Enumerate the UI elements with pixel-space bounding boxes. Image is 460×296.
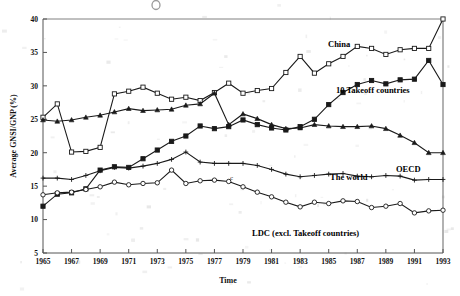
data-point xyxy=(184,134,188,138)
data-point xyxy=(98,145,102,149)
x-tick-label: 1979 xyxy=(236,257,251,266)
x-tick-label: 1967 xyxy=(64,257,79,266)
data-point xyxy=(169,139,173,143)
data-point xyxy=(427,46,431,50)
series-label-takeoff: 10 Takeoff countries xyxy=(336,85,410,95)
data-point xyxy=(398,78,402,82)
data-point xyxy=(298,205,302,209)
data-point xyxy=(255,123,259,127)
data-point xyxy=(255,88,259,92)
x-tick-label: 1973 xyxy=(150,257,165,266)
data-point xyxy=(327,62,331,66)
series-label-china: China xyxy=(328,39,351,49)
data-point xyxy=(312,71,316,75)
data-point xyxy=(398,48,402,52)
data-point xyxy=(55,102,59,106)
data-point xyxy=(441,17,445,21)
data-point xyxy=(155,148,159,152)
data-point xyxy=(227,81,231,85)
data-point xyxy=(269,195,273,199)
data-point xyxy=(341,54,345,58)
series-label-world: The world xyxy=(330,172,368,182)
data-point xyxy=(369,205,373,209)
data-point xyxy=(241,118,245,122)
x-tick-label: 1991 xyxy=(407,257,422,266)
y-tick-label: 30 xyxy=(31,82,39,91)
data-point xyxy=(355,199,359,203)
data-point xyxy=(184,181,188,185)
data-point xyxy=(269,86,273,90)
data-point xyxy=(369,46,373,50)
data-point xyxy=(141,181,145,185)
data-point xyxy=(427,209,431,213)
data-point xyxy=(298,54,302,58)
x-tick-label: 1969 xyxy=(93,257,108,266)
chart-container: 5101520253035401965196719691971197319751… xyxy=(0,0,460,296)
data-point xyxy=(327,102,331,106)
data-point xyxy=(98,185,102,189)
x-tick-label: 1993 xyxy=(436,257,451,266)
y-tick-label: 25 xyxy=(31,115,39,124)
data-point xyxy=(255,190,259,194)
data-point xyxy=(112,180,116,184)
data-point xyxy=(184,95,188,99)
series-label-ldc: LDC (excl. Takeoff countries) xyxy=(252,228,359,238)
data-point xyxy=(198,124,202,128)
data-point xyxy=(112,92,116,96)
annotation-c: c xyxy=(230,174,233,182)
series-label-oecd: OECD xyxy=(396,164,421,174)
data-point xyxy=(284,70,288,74)
data-point xyxy=(441,208,445,212)
data-point xyxy=(284,200,288,204)
x-tick-label: 1989 xyxy=(378,257,393,266)
data-point xyxy=(355,44,359,48)
x-tick-label: 1971 xyxy=(121,257,136,266)
data-point xyxy=(84,187,88,191)
data-point xyxy=(241,185,245,189)
data-point xyxy=(412,211,416,215)
data-point xyxy=(141,85,145,89)
data-point xyxy=(441,82,445,86)
x-tick-label: 1975 xyxy=(178,257,193,266)
data-point xyxy=(241,91,245,95)
data-point xyxy=(312,200,316,204)
x-tick-label: 1987 xyxy=(350,257,365,266)
data-point xyxy=(69,150,73,154)
data-point xyxy=(212,178,216,182)
data-point xyxy=(312,117,316,121)
data-point xyxy=(169,97,173,101)
data-point xyxy=(141,157,145,161)
data-point xyxy=(127,183,131,187)
data-point xyxy=(198,179,202,183)
data-point xyxy=(55,191,59,195)
data-point xyxy=(155,91,159,95)
data-point xyxy=(155,181,159,185)
x-axis-title: Time xyxy=(219,276,237,285)
line-chart: 5101520253035401965196719691971197319751… xyxy=(0,0,460,296)
data-point xyxy=(384,204,388,208)
x-tick-label: 1985 xyxy=(321,257,336,266)
data-point xyxy=(41,204,45,208)
data-point xyxy=(69,190,73,194)
data-point xyxy=(398,201,402,205)
data-point xyxy=(327,201,331,205)
data-point xyxy=(169,168,173,172)
y-tick-label: 40 xyxy=(31,15,39,24)
data-point xyxy=(127,89,131,93)
data-point xyxy=(369,78,373,82)
data-point xyxy=(384,52,388,56)
y-tick-label: 15 xyxy=(31,182,39,191)
y-tick-label: 35 xyxy=(31,48,39,57)
data-point xyxy=(41,193,45,197)
x-tick-label: 1977 xyxy=(207,257,222,266)
y-axis-title: Average GNSI/GNP (%) xyxy=(9,94,18,178)
data-point xyxy=(427,58,431,62)
x-tick-label: 1981 xyxy=(264,257,279,266)
data-point xyxy=(341,199,345,203)
data-point xyxy=(412,77,416,81)
y-tick-label: 20 xyxy=(31,149,39,158)
x-tick-label: 1983 xyxy=(293,257,308,266)
x-tick-label: 1965 xyxy=(36,257,51,266)
data-point xyxy=(84,149,88,153)
data-point xyxy=(212,127,216,131)
